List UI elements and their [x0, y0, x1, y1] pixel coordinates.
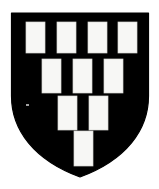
billet	[89, 96, 108, 130]
billet	[118, 22, 137, 53]
billet	[74, 131, 93, 166]
billet	[88, 22, 107, 53]
billet	[104, 59, 123, 93]
billet	[57, 22, 76, 53]
coat-of-arms-illustration	[0, 0, 159, 189]
billet	[26, 22, 45, 53]
billet	[73, 59, 92, 93]
billet-row-4	[74, 131, 93, 166]
billet-row-2	[42, 59, 123, 93]
scan-speck	[26, 104, 29, 106]
billet	[42, 59, 61, 93]
billet	[58, 96, 77, 130]
image-canvas	[0, 0, 159, 189]
